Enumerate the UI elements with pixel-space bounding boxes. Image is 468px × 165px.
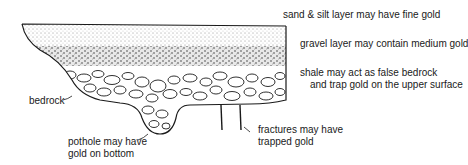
label-shale-line1: shale may act as false bedrock [300, 67, 437, 78]
label-fractures-line2: trapped gold [258, 136, 314, 147]
label-gravel: gravel layer may contain medium gold [300, 38, 468, 49]
layer-cobbles [0, 66, 300, 146]
label-pothole-line2: gold on bottom [68, 148, 134, 159]
label-pothole-line1: pothole may have [68, 136, 147, 147]
label-bedrock: bedrock [29, 95, 65, 106]
label-fractures-line1: fractures may have [258, 124, 343, 135]
layer-gravel-fine [0, 46, 300, 68]
fractures [221, 105, 241, 130]
label-sand-silt: sand & silt layer may have fine gold [283, 9, 440, 20]
label-shale-line2: and trap gold on the upper surface [310, 79, 463, 90]
